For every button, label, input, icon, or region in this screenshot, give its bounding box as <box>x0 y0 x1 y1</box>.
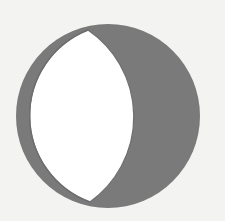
moon-phase-diagram <box>0 0 225 221</box>
